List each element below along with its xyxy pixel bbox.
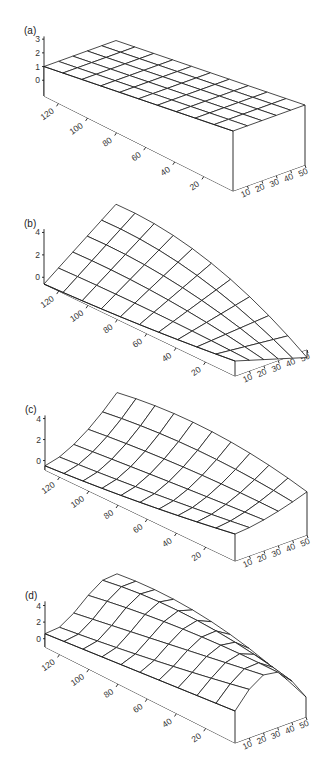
- panel-label: (c): [25, 404, 37, 415]
- z-tick-label: 2: [35, 250, 40, 260]
- x-tick: [115, 133, 117, 136]
- z-tick-label: 0: [35, 75, 40, 85]
- x-tick-label: 20: [189, 731, 203, 745]
- x-tick: [57, 291, 59, 294]
- x-tick: [204, 362, 206, 365]
- x-tick: [116, 684, 118, 687]
- z-tick-label: 0: [35, 272, 40, 282]
- z-tick-label: 0: [36, 634, 41, 644]
- x-tick: [87, 669, 89, 672]
- x-tick-label: 60: [131, 521, 145, 535]
- panel-label: (d): [25, 590, 37, 601]
- x-tick-label: 60: [131, 701, 145, 715]
- panel-label: (b): [24, 218, 36, 229]
- x-tick: [87, 491, 89, 494]
- surface-plot-d: 024(d)204060801001201020304050: [25, 574, 311, 752]
- x-tick-label: 100: [68, 308, 86, 324]
- z-tick-label: 2: [35, 48, 40, 58]
- panel-label: (a): [24, 25, 36, 36]
- x-tick: [204, 728, 206, 731]
- x-tick: [115, 319, 117, 322]
- x-tick-label: 40: [159, 164, 173, 178]
- x-tick: [57, 103, 59, 106]
- x-tick-label: 80: [100, 135, 114, 149]
- x-tick: [58, 654, 60, 657]
- figure-canvas: 0123(a)204060801001201020304050024(b)204…: [0, 0, 332, 771]
- x-tick: [116, 505, 118, 508]
- surface-mesh: [44, 204, 307, 361]
- surface-plot-b: 024(b)204060801001201020304050: [24, 204, 312, 384]
- x-tick-label: 20: [189, 364, 203, 378]
- x-tick-label: 40: [160, 716, 174, 730]
- x-tick-label: 20: [189, 549, 203, 563]
- x-tick: [173, 162, 175, 165]
- x-tick: [58, 477, 60, 480]
- x-tick-label: 80: [102, 686, 116, 700]
- x-tick-label: 20: [188, 179, 202, 193]
- x-tick-label: 100: [69, 493, 87, 509]
- x-tick: [86, 305, 88, 308]
- x-tick-label: 80: [102, 507, 116, 521]
- x-tick-label: 60: [129, 149, 143, 163]
- surface-plot-a: 0123(a)204060801001201020304050: [24, 25, 310, 199]
- x-tick-label: 120: [39, 479, 57, 495]
- z-tick-label: 4: [36, 414, 41, 424]
- x-tick-label: 100: [69, 671, 87, 687]
- x-tick: [145, 519, 147, 522]
- x-tick: [202, 176, 204, 179]
- x-tick-label: 120: [39, 657, 57, 673]
- x-tick-label: 60: [131, 336, 145, 350]
- surface-mesh: [45, 393, 307, 534]
- x-tick-label: 120: [38, 106, 56, 122]
- surface-plot-c: 024(c)204060801001201020304050: [25, 393, 312, 570]
- x-tick-label: 40: [160, 350, 174, 364]
- x-tick: [144, 147, 146, 150]
- x-tick: [145, 334, 147, 337]
- z-tick-label: 2: [36, 435, 41, 445]
- x-tick: [174, 348, 176, 351]
- x-tick: [86, 118, 88, 121]
- x-tick: [175, 533, 177, 536]
- x-tick-label: 80: [101, 322, 115, 336]
- x-tick: [204, 547, 206, 550]
- x-tick-label: 40: [160, 535, 174, 549]
- x-tick-label: 100: [67, 120, 85, 136]
- z-tick-label: 4: [36, 601, 41, 611]
- x-tick: [175, 713, 177, 716]
- z-tick-label: 2: [36, 617, 41, 627]
- z-tick-label: 0: [36, 456, 41, 466]
- z-tick-label: 1: [35, 62, 40, 72]
- x-tick: [145, 699, 147, 702]
- x-tick-label: 120: [38, 293, 56, 309]
